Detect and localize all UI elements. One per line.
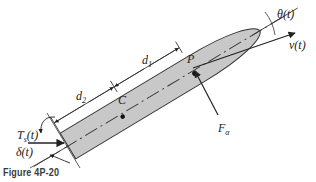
force-alpha-label: Fα bbox=[217, 121, 230, 137]
delta-label: δ(t) bbox=[16, 145, 33, 159]
d1-label: d1 bbox=[142, 53, 152, 69]
torque-curved-arrow bbox=[41, 117, 55, 133]
velocity-label: v(t) bbox=[289, 38, 306, 52]
theta-label: θ(t) bbox=[277, 7, 294, 21]
delta-curved-arrow bbox=[50, 155, 70, 163]
theta-angle-arc bbox=[265, 12, 275, 35]
figure-caption: Figure 4P-20 bbox=[3, 166, 59, 178]
missile-body bbox=[16, 0, 305, 179]
point-p-label: P bbox=[186, 52, 195, 66]
torque-label: Ts(t) bbox=[17, 128, 38, 144]
point-c-label: C bbox=[118, 93, 127, 107]
missile-diagram: θ(t) v(t) P C d1 d2 Fα Ts(t) δ(t) bbox=[0, 0, 316, 182]
d2-label: d2 bbox=[76, 89, 86, 105]
